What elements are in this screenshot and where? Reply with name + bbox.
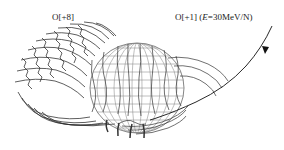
o1-incoming-trajectory	[150, 26, 272, 120]
o8-trajectory-loops	[91, 44, 228, 138]
trajectory-figure: O[+8] O[+1] (E=30MeV/N)	[0, 0, 284, 150]
arrowhead-icon	[262, 46, 269, 54]
o8-label: O[+8]	[52, 13, 74, 22]
globe-icon	[88, 43, 186, 133]
o8-trajectory-band	[15, 22, 116, 126]
trajectory-svg	[0, 0, 284, 150]
o1-label: O[+1] (E=30MeV/N)	[175, 13, 252, 22]
o1-label-prefix: O[+1] (	[175, 12, 202, 22]
energy-value: =30MeV/N)	[208, 12, 253, 22]
